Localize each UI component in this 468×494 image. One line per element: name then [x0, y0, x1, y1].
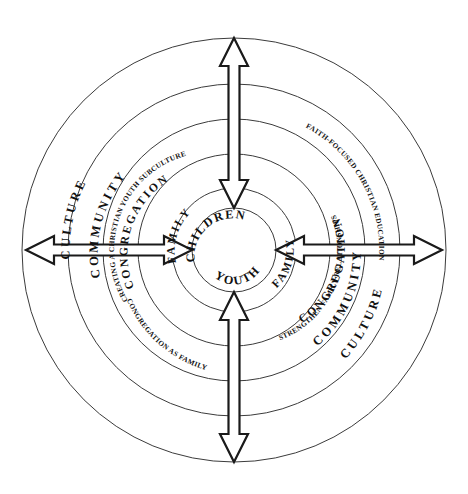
label-strategy-bottom-left: CONGREGATION AS FAMILY — [125, 297, 209, 372]
label-group: CHILDREN YOUTH FAMILY FAMILY CONGREGATIO… — [58, 121, 386, 372]
arrow-bottom — [220, 292, 248, 462]
diagram-canvas: CHILDREN YOUTH FAMILY FAMILY CONGREGATIO… — [0, 0, 468, 494]
label-youth: YOUTH — [213, 263, 264, 288]
ecology-diagram: CHILDREN YOUTH FAMILY FAMILY CONGREGATIO… — [0, 0, 468, 494]
label-children: CHILDREN — [183, 207, 247, 262]
arrow-top — [220, 38, 248, 208]
label-congregation-left: CONGREGATION — [117, 172, 171, 291]
